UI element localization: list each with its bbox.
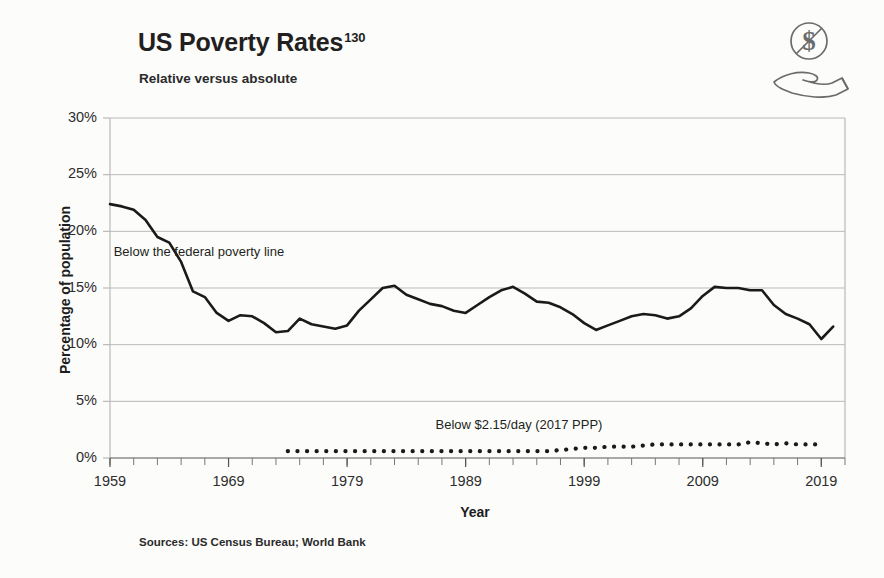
y-tick-label: 30% [68, 109, 97, 125]
chart-y-axis-ticks [103, 118, 110, 458]
chart-page: US Poverty Rates130 Relative versus abso… [0, 0, 884, 578]
chart-gridlines [110, 118, 845, 401]
chart-svg: 0%5%10%15%20%25%30% 19591969197919891999… [0, 0, 884, 578]
source-note: Sources: US Census Bureau; World Bank [139, 536, 366, 548]
x-tick-label: 2009 [687, 473, 719, 489]
x-tick-label: 1969 [212, 473, 244, 489]
y-tick-label: 25% [68, 165, 97, 181]
x-tick-label: 1999 [568, 473, 600, 489]
x-tick-label: 2019 [805, 473, 837, 489]
chart-x-tick-labels: 1959196919791989199920092019 [94, 473, 838, 489]
y-tick-label: 0% [76, 449, 97, 465]
chart-x-axis-ticks [110, 458, 845, 467]
chart-annotation-label: Below the federal poverty line [114, 244, 285, 259]
x-tick-label: 1989 [450, 473, 482, 489]
poverty-rates-chart: 0%5%10%15%20%25%30% 19591969197919891999… [0, 0, 884, 578]
series-line [110, 204, 833, 339]
x-tick-label: 1979 [331, 473, 363, 489]
series-line [288, 442, 821, 451]
chart-series-group [110, 204, 833, 451]
chart-annotations: Below the federal poverty lineBelow $2.1… [114, 244, 603, 431]
y-axis-title: Percentage of population [57, 206, 73, 374]
x-axis-title: Year [460, 504, 490, 520]
chart-annotation-label: Below $2.15/day (2017 PPP) [436, 417, 603, 432]
x-tick-label: 1959 [94, 473, 126, 489]
y-tick-label: 5% [76, 392, 97, 408]
